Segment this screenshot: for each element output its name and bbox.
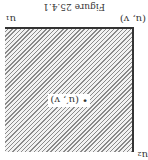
- hatched-region: [5, 27, 134, 152]
- label-u1: u₁: [6, 14, 16, 24]
- figure-caption: Figure 25.4.1: [0, 2, 148, 12]
- label-corner-uv: (u, v): [120, 14, 146, 24]
- label-u2: u₂: [138, 150, 148, 160]
- figure: u₂ (u, v) u₁ • (u′, v) Figure 25.4.1: [0, 0, 148, 160]
- point-label: • (u′, v): [48, 94, 90, 107]
